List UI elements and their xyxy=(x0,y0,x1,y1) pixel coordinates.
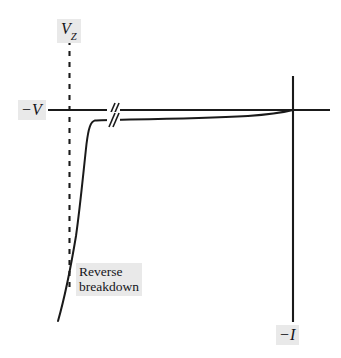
breakdown-line-1: Reverse xyxy=(79,264,139,279)
voltage-axis-label: −V xyxy=(18,100,46,120)
axis-break-mark-lower xyxy=(107,112,120,128)
negi-symbol: I xyxy=(290,326,295,343)
breakdown-line-2: breakdown xyxy=(79,279,139,294)
zener-voltage-axis-label: VZ xyxy=(57,19,81,43)
negi-minus-sign: − xyxy=(280,326,290,343)
vz-symbol: V xyxy=(61,20,71,37)
plot-canvas xyxy=(0,0,341,358)
zener-characteristic-figure: VZ −V −I Reversebreakdown xyxy=(0,0,341,358)
negv-minus-sign: − xyxy=(22,101,32,118)
current-axis-label: −I xyxy=(276,325,299,345)
negv-symbol: V xyxy=(32,101,42,118)
reverse-breakdown-annotation: Reversebreakdown xyxy=(76,263,142,296)
vz-subscript: Z xyxy=(71,31,77,42)
